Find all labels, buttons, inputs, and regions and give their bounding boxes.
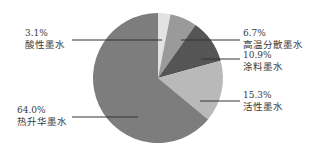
label-disperse: 6.7% 高温分散墨水 — [243, 28, 303, 50]
label-acid-name: 酸性墨水 — [25, 39, 65, 50]
pie-chart — [0, 0, 322, 154]
label-sublimation: 64.0% 热升华墨水 — [17, 105, 67, 127]
label-acid-pct: 3.1% — [25, 28, 65, 39]
pie-slices — [93, 13, 223, 143]
label-acid: 3.1% 酸性墨水 — [25, 28, 65, 50]
label-reactive-name: 活性墨水 — [243, 101, 283, 112]
label-pigment: 10.9% 涂料墨水 — [243, 50, 283, 72]
label-reactive: 15.3% 活性墨水 — [243, 90, 283, 112]
label-sublimation-pct: 64.0% — [17, 105, 67, 116]
label-pigment-pct: 10.9% — [243, 50, 283, 61]
label-sublimation-name: 热升华墨水 — [17, 116, 67, 127]
label-reactive-pct: 15.3% — [243, 90, 283, 101]
label-disperse-pct: 6.7% — [243, 28, 303, 39]
label-pigment-name: 涂料墨水 — [243, 61, 283, 72]
label-disperse-name: 高温分散墨水 — [243, 39, 303, 50]
